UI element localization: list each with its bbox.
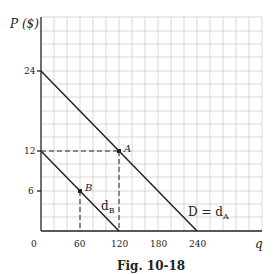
y-axis-label: P ($)	[9, 17, 39, 31]
x-tick-60: 60	[74, 239, 86, 249]
x-tick-0: 0	[31, 239, 37, 249]
point-a-marker	[117, 149, 121, 153]
figure-canvas: P ($) 24 12 6 0 60 120 180 240 q A B dB …	[0, 0, 280, 274]
point-b-marker	[78, 189, 82, 193]
figure-caption: Fig. 10-18	[117, 259, 185, 273]
x-tick-240: 240	[189, 239, 206, 249]
curve-db-label: dB	[101, 199, 115, 215]
grid	[41, 17, 262, 231]
y-tick-12: 12	[24, 146, 35, 156]
curve-d-label: D = dA	[188, 205, 229, 221]
x-axis-label: q	[255, 237, 263, 251]
x-tick-180: 180	[150, 239, 167, 249]
point-a-label: A	[123, 143, 131, 154]
x-tick-120: 120	[111, 239, 128, 249]
y-tick-24: 24	[24, 66, 36, 76]
point-b-label: B	[84, 182, 92, 193]
y-tick-6: 6	[28, 186, 34, 196]
